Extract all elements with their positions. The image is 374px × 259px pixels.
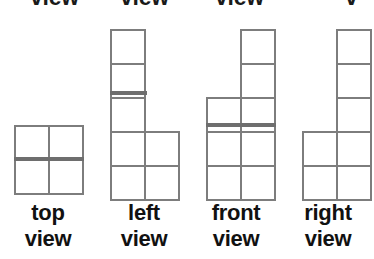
view-labels-row: topviewleftviewfrontviewrightview	[0, 200, 374, 259]
right-view-cell	[302, 165, 338, 201]
label-left-view-line2: view	[98, 226, 190, 252]
label-right-view: rightview	[282, 200, 374, 252]
views-diagram-area	[0, 0, 374, 200]
orthographic-views-figure: viewviewviewv topviewleftviewfrontviewri…	[0, 0, 374, 259]
label-top-view-line2: view	[2, 226, 94, 252]
right-view	[0, 0, 374, 200]
right-view-cell	[336, 29, 372, 65]
label-top-view-line1: top	[2, 200, 94, 226]
right-view-cell	[302, 131, 338, 167]
label-left-view-line1: left	[98, 200, 190, 226]
right-view-cell	[336, 97, 372, 133]
label-right-view-line2: view	[282, 226, 374, 252]
label-front-view: frontview	[190, 200, 282, 252]
label-front-view-line2: view	[190, 226, 282, 252]
label-left-view: leftview	[98, 200, 190, 252]
label-top-view: topview	[2, 200, 94, 252]
label-right-view-line1: right	[282, 200, 374, 226]
right-view-cell	[336, 63, 372, 99]
right-view-cell	[336, 131, 372, 167]
right-view-cell	[336, 165, 372, 201]
label-front-view-line1: front	[190, 200, 282, 226]
